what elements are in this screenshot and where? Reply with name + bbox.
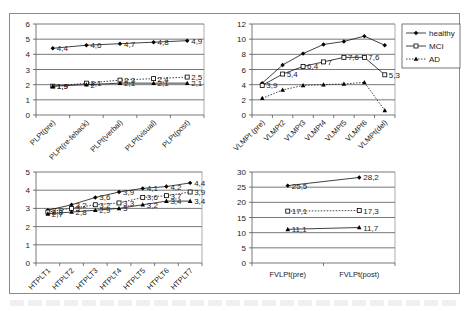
x-tick-label: PLPt(verbal) — [89, 118, 125, 154]
data-label: 3 — [123, 204, 128, 213]
y-tick-label: 2 — [26, 81, 31, 90]
y-tick-label: 0 — [26, 259, 31, 268]
data-label: 7,6 — [348, 53, 360, 62]
x-tick-label: HTPLT6 — [145, 266, 171, 292]
data-label: 7 — [328, 58, 333, 67]
data-label: 2,1 — [158, 79, 170, 88]
x-tick-label: FVLPt(post) — [339, 270, 380, 279]
series-mci: 17,117,3 — [286, 207, 380, 217]
data-label: 2,8 — [76, 208, 88, 217]
data-label: 2,9 — [99, 206, 111, 215]
data-label: 17,3 — [363, 207, 379, 216]
y-tick-label: 20 — [237, 198, 246, 207]
x-tick-label: VLMPt4 — [303, 118, 328, 143]
x-tick-label: HTPLT3 — [74, 266, 100, 292]
x-tick-label: PLPt(visual) — [123, 118, 158, 153]
y-tick-label: 5 — [26, 168, 31, 177]
data-label: 4,4 — [57, 44, 69, 53]
y-tick-label: 1 — [26, 241, 31, 250]
charts-canvas: 0123456PLPt(pre)PLPt(re-feback)PLPt(verb… — [0, 0, 471, 311]
y-tick-label: 10 — [237, 229, 246, 238]
x-tick-label: VLMPt3 — [282, 118, 307, 143]
data-label: 6,4 — [307, 62, 319, 71]
y-tick-label: 12 — [237, 20, 246, 29]
y-tick-label: 8 — [242, 50, 247, 59]
legend-item-mci: MCI — [429, 42, 444, 51]
y-tick-label: 0 — [26, 111, 31, 120]
data-label: 4,6 — [90, 41, 102, 50]
x-tick-label: PLPt(pre) — [28, 118, 57, 147]
data-label: 1,9 — [57, 82, 69, 91]
y-tick-label: 6 — [242, 66, 247, 75]
y-tick-label: 6 — [26, 20, 31, 29]
y-tick-label: 0 — [242, 259, 247, 268]
data-label: 3,4 — [170, 197, 182, 206]
x-tick-label: FVLPt(pre) — [269, 270, 306, 279]
y-tick-label: 2 — [242, 96, 247, 105]
x-tick-label: HTPLT5 — [121, 266, 147, 292]
y-tick-label: 4 — [26, 186, 31, 195]
x-tick-label: PLPt(post) — [160, 118, 192, 150]
legend: healthyMCIAD — [402, 24, 460, 68]
y-tick-label: 1 — [26, 96, 31, 105]
y-tick-label: 5 — [26, 35, 31, 44]
y-tick-label: 3 — [26, 66, 31, 75]
x-tick-label: HTPLT1 — [27, 266, 53, 292]
data-label: 2,7 — [52, 210, 64, 219]
data-label: 11,1 — [292, 225, 308, 234]
data-label: 11,7 — [363, 224, 379, 233]
data-label: 3,4 — [194, 197, 206, 206]
y-tick-label: 0 — [242, 111, 247, 120]
data-label: 5,4 — [287, 70, 299, 79]
data-label: 4,9 — [191, 37, 203, 46]
data-label: 2,1 — [191, 79, 203, 88]
series-healthy: 25,528,2 — [286, 173, 380, 190]
data-label: 4,7 — [124, 40, 136, 49]
data-label: 2 — [90, 81, 95, 90]
data-label: 4,2 — [170, 183, 182, 192]
data-label: 3,9 — [266, 81, 278, 90]
x-tick-label: VLMPt5 — [323, 118, 348, 143]
y-tick-label: 15 — [237, 214, 246, 223]
legend-item-ad: AD — [429, 55, 440, 64]
series-ad: 1,922,12,12,1 — [51, 79, 203, 91]
data-label: 2,1 — [124, 79, 136, 88]
data-label: 4,8 — [158, 38, 170, 47]
x-tick-label: VLMPt (pre) — [232, 118, 267, 153]
data-label: 4,1 — [147, 184, 159, 193]
data-label: 7,6 — [368, 53, 380, 62]
y-tick-label: 4 — [26, 50, 31, 59]
chart-3: 012345HTPLT1HTPLT2HTPLT3HTPLT4HTPLT5HTPL… — [26, 168, 206, 292]
caption-blur — [10, 300, 460, 306]
y-tick-label: 2 — [26, 223, 31, 232]
data-label: 3,9 — [194, 188, 206, 197]
chart-1: 0123456PLPt(pre)PLPt(re-feback)PLPt(verb… — [26, 20, 204, 162]
data-label: 25,5 — [292, 182, 308, 191]
data-label: 28,2 — [363, 173, 379, 182]
chart-4: 051015202530FVLPt(pre)FVLPt(post)25,528,… — [237, 168, 395, 279]
y-tick-label: 5 — [242, 244, 247, 253]
x-tick-label: HTPLT2 — [50, 266, 76, 292]
data-label: 3,2 — [147, 201, 159, 210]
y-tick-label: 4 — [242, 81, 247, 90]
x-tick-label: VLMPt2 — [262, 118, 287, 143]
x-tick-label: HTPLT7 — [169, 266, 195, 292]
data-label: 5,3 — [389, 71, 401, 80]
data-label: 4,4 — [194, 179, 206, 188]
x-tick-label: HTPLT4 — [98, 266, 124, 292]
y-tick-label: 25 — [237, 183, 246, 192]
y-tick-label: 10 — [237, 35, 246, 44]
y-tick-label: 3 — [26, 204, 31, 213]
chart-2: 024681012VLMPt (pre)VLMPt2VLMPt3VLMPt4VL… — [232, 20, 401, 153]
y-tick-label: 30 — [237, 168, 246, 177]
data-label: 3,9 — [123, 188, 135, 197]
data-label: 17,1 — [292, 207, 308, 216]
legend-item-healthy: healthy — [429, 29, 455, 38]
